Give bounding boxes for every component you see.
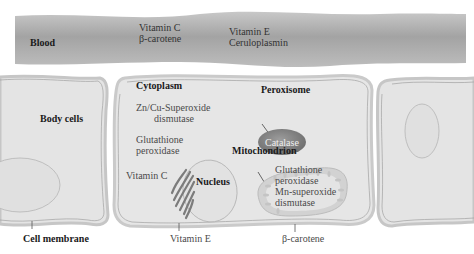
cytoplasm-enzyme1-line2: dismutase [154,113,194,124]
blood-label: Blood [30,37,55,48]
membrane-vitamin-e: Vitamin E [170,233,211,244]
blood-beta-carotene: β-carotene [139,33,181,44]
mito-line1: Glutathione [275,164,322,175]
membrane-beta-carotene: β-carotene [282,233,324,244]
peroxisome-label: Peroxisome [261,84,310,95]
mito-line3: Mn-superoxide [275,186,336,197]
cytoplasm-enzyme2-line2: peroxidase [136,145,179,156]
body-cells-label: Body cells [40,113,83,124]
cytoplasm-enzyme1-line1: Zn/Cu-Superoxide [136,102,210,113]
nucleus-right [405,104,439,158]
cytoplasm-enzyme2-line1: Glutathione [136,134,183,145]
cytoplasm-label: Cytoplasm [136,80,182,91]
mitochondrion-label: Mitochondrion [232,145,296,156]
nucleus-label: Nucleus [196,176,230,187]
cytoplasm-vitamin-c: Vitamin C [126,170,167,181]
mito-line2: peroxidase [275,175,318,186]
blood-vitamin-e: Vitamin E [229,26,270,37]
blood-vitamin-c: Vitamin C [139,22,180,33]
blood-ceruloplasmin: Ceruloplasmin [229,37,288,48]
cell-membrane-label: Cell membrane [23,233,89,244]
mito-line4: dismutase [275,197,315,208]
